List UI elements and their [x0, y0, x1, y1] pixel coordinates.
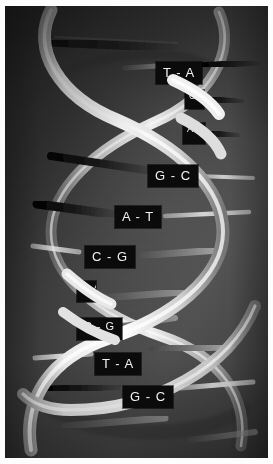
dna-helix-figure: T - A C - G A - T G - C A - T C - G T - … [0, 0, 273, 464]
base-pair-label-6: C - G [85, 246, 135, 268]
base-pair-label-8: C - G [77, 318, 122, 340]
photo-plate: T - A C - G A - T G - C A - T C - G T - … [5, 6, 268, 458]
base-pair-label-9: T - A [95, 353, 141, 375]
base-pair-label-2: C - G [185, 90, 204, 109]
base-pair-label-1: T - A [156, 62, 202, 84]
base-pair-label-4: G - C [148, 165, 198, 187]
base-pair-label-5: A - T [115, 206, 161, 228]
base-pair-label-7: T - A [77, 281, 96, 302]
base-pair-label-3: A - T [183, 123, 205, 144]
base-pair-label-10: G - C [123, 386, 173, 408]
